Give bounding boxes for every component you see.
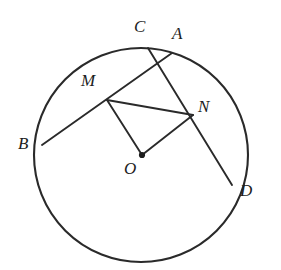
point-label-D: D (240, 182, 252, 199)
segment-NO (142, 115, 193, 155)
point-label-O: O (124, 160, 136, 177)
point-label-M: M (81, 72, 95, 89)
point-label-B: B (18, 135, 28, 152)
point-label-C: C (134, 18, 145, 35)
point-label-N: N (198, 98, 209, 115)
point-label-A: A (172, 25, 182, 42)
segment-MO (107, 100, 142, 155)
segment-MN (107, 100, 193, 115)
geometry-canvas (0, 0, 281, 270)
center-point-dot (139, 152, 145, 158)
geometry-figure: C A M N B O D (0, 0, 281, 270)
chord-BA (42, 53, 172, 145)
